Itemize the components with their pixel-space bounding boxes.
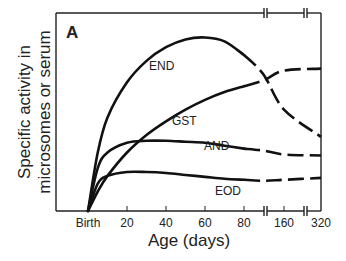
y-axis-label-line1: Specific activity in bbox=[15, 45, 34, 179]
x-tick-label: 60 bbox=[198, 216, 212, 230]
series-line-dashed-and bbox=[244, 149, 321, 156]
series-label-end: END bbox=[149, 59, 175, 73]
x-tick-label: 80 bbox=[237, 216, 251, 230]
chart-svg: Birth20406080160320 A END GST AND EOD Ag… bbox=[0, 0, 346, 261]
series-label-eod: EOD bbox=[215, 184, 241, 198]
series-group bbox=[88, 37, 321, 211]
x-tick-label: 40 bbox=[159, 216, 173, 230]
x-tick-label: 320 bbox=[311, 216, 331, 230]
x-tick-label: 160 bbox=[274, 216, 294, 230]
x-tick-label: 20 bbox=[120, 216, 134, 230]
panel-label: A bbox=[66, 23, 78, 42]
series-line-dashed-gst bbox=[244, 69, 321, 87]
series-label-and: AND bbox=[204, 139, 230, 153]
x-axis-label: Age (days) bbox=[148, 231, 230, 250]
x-ticks: Birth20406080160320 bbox=[76, 206, 332, 230]
y-axis-label-line2: microsomes or serum bbox=[35, 30, 54, 193]
series-line-dashed-end bbox=[244, 55, 321, 137]
series-label-gst: GST bbox=[172, 114, 197, 128]
x-tick-label: Birth bbox=[76, 216, 101, 230]
series-line-dashed-eod bbox=[244, 178, 321, 181]
